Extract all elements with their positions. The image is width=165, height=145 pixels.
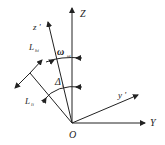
label-Y: Y	[150, 117, 157, 128]
label-L-top-sub: hi	[35, 48, 40, 53]
l-arrow-bottom	[15, 73, 30, 88]
label-omega-sub: ω	[67, 53, 71, 58]
label-y-prime: y '	[117, 90, 127, 100]
label-O: O	[69, 129, 76, 140]
z-prime-axis	[48, 22, 72, 123]
delta-arc	[44, 87, 82, 100]
label-z-prime: z '	[32, 22, 42, 32]
coordinate-diagram: Z z ' y ' Y O ω ω Δ i L hi L li	[0, 0, 165, 145]
y-prime-axis	[72, 95, 138, 123]
label-L-bottom: L	[24, 96, 30, 106]
label-L-bottom-sub: li	[31, 102, 34, 107]
label-L-top: L	[28, 42, 34, 52]
label-delta: Δ	[54, 76, 61, 87]
l-arrow-top	[30, 60, 42, 73]
label-Z: Z	[80, 8, 86, 19]
label-omega: ω	[57, 46, 64, 57]
